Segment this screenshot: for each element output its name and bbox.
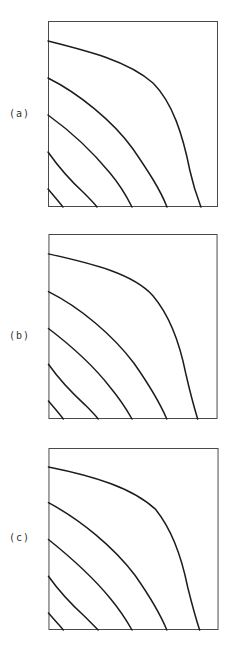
contour-5 (48, 401, 63, 419)
contour-3 (48, 115, 132, 207)
contour-2 (48, 292, 166, 419)
contour-4 (48, 364, 98, 419)
panel-a-label: (a) (9, 108, 30, 120)
panel-a: (a) (0, 0, 231, 215)
contour-1 (48, 467, 199, 630)
panel-c-plot (48, 448, 219, 630)
panel-c-label: (c) (9, 532, 30, 544)
contour-1 (48, 41, 201, 207)
contour-3 (48, 328, 132, 419)
contour-1 (48, 254, 197, 419)
panel-a-plot (48, 21, 218, 207)
contour-3 (48, 539, 132, 630)
contour-4 (48, 576, 98, 630)
plot-frame (49, 448, 218, 629)
contour-2 (48, 503, 166, 630)
contour-2 (48, 78, 167, 207)
plot-frame (49, 234, 217, 418)
panel-b-plot (48, 234, 218, 419)
contour-5 (48, 189, 63, 207)
contour-5 (48, 613, 63, 630)
panel-b-label: (b) (9, 330, 30, 342)
